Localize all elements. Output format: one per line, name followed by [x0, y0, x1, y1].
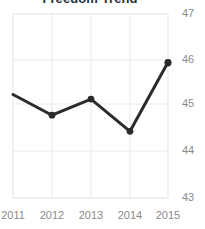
data-point-2011[interactable]	[49, 112, 56, 119]
chart-container: Freedom Trend 47 46	[0, 0, 205, 229]
x-tick-label-2014: 2014	[110, 209, 150, 221]
x-tick-label-2011: 2011	[0, 209, 33, 221]
x-tick-label-2012: 2012	[32, 209, 72, 221]
data-point-markers	[49, 59, 172, 135]
data-point-2012[interactable]	[88, 96, 95, 103]
y-tick-label-45: 45	[182, 97, 194, 109]
y-tick-label-44: 44	[182, 144, 194, 156]
y-tick-label-46: 46	[182, 53, 194, 65]
chart-plot-area	[0, 0, 205, 229]
y-tick-label-43: 43	[182, 191, 194, 203]
data-point-2015[interactable]	[165, 60, 172, 67]
x-tick-label-2015: 2015	[148, 209, 188, 221]
data-point-2013[interactable]	[127, 128, 134, 135]
x-tick-label-2013: 2013	[71, 209, 111, 221]
y-tick-label-47: 47	[182, 7, 194, 19]
